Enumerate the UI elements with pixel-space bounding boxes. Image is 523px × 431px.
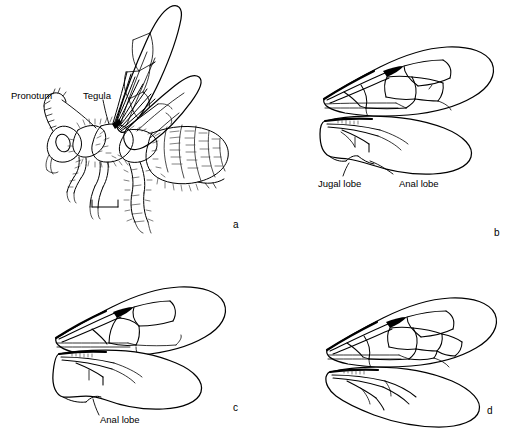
panel-letter-c: c [233,402,238,413]
panel-d: d [326,298,497,427]
panel-a-leaders [62,100,109,128]
label-anal-lobe-b: Anal lobe [399,178,439,189]
panel-a: Pronotum Tegula a [11,6,239,233]
scale-bar [92,200,118,207]
panel-a-wings [112,6,201,150]
panel-c: Anal lobe c [53,287,238,425]
label-jugal-lobe: Jugal lobe [318,178,361,189]
panel-a-legs [67,157,153,233]
abdomen-texture [152,131,222,177]
panel-letter-d: d [487,405,493,416]
label-pronotum: Pronotum [11,90,52,101]
figure-plate: Pronotum Tegula a [0,0,523,431]
label-tegula: Tegula [83,90,112,101]
figure-canvas: Pronotum Tegula a [0,0,523,431]
panel-letter-b: b [494,227,500,238]
label-anal-lobe-c: Anal lobe [100,414,140,425]
panel-letter-a: a [233,219,239,230]
panel-b: Jugal lobe Anal lobe b [318,47,500,238]
